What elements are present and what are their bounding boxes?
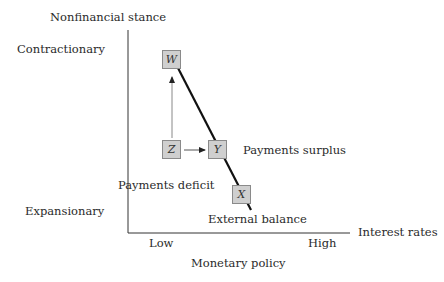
- y-axis-title: Nonfinancial stance: [50, 12, 166, 24]
- point-y-box: Y: [208, 140, 227, 159]
- point-z-box: Z: [162, 140, 181, 159]
- x-axis-title: Monetary policy: [191, 258, 286, 270]
- point-x-box: X: [232, 185, 251, 204]
- payments-deficit-label: Payments deficit: [118, 180, 214, 192]
- external-balance-label: External balance: [208, 214, 307, 226]
- point-w-box: W: [162, 50, 181, 69]
- y-axis-top-label: Contractionary: [17, 44, 105, 56]
- x-axis-left-label: Low: [149, 238, 173, 250]
- x-axis-right-label: High: [308, 238, 336, 250]
- y-axis-bottom-label: Expansionary: [25, 206, 104, 218]
- x-axis-end-label: Interest rates: [358, 227, 438, 239]
- payments-surplus-label: Payments surplus: [243, 145, 346, 157]
